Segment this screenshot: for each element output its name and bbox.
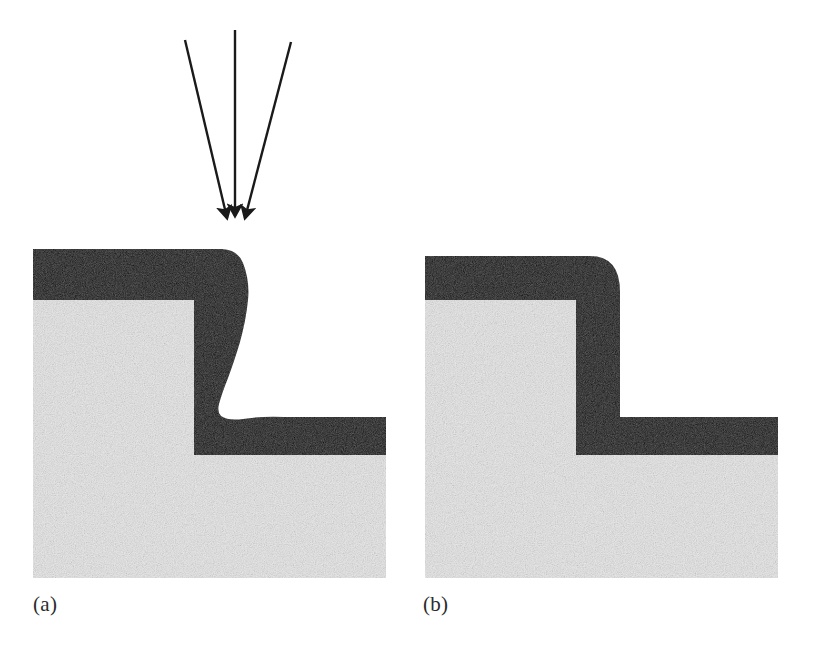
panel-label-b: (b) [423, 592, 448, 617]
step-coverage-figure [0, 0, 814, 653]
figure-root: (a) (b) [0, 0, 814, 653]
panel-label-a: (a) [33, 592, 57, 617]
